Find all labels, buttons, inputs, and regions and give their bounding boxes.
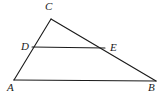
vertex-label-e: E xyxy=(110,42,117,53)
vertex-label-d: D xyxy=(21,41,29,52)
vertex-label-c: C xyxy=(45,1,52,12)
geometry-figure: C D E A B xyxy=(0,0,164,97)
vertex-label-b: B xyxy=(148,82,155,93)
vertex-label-a: A xyxy=(7,82,14,93)
